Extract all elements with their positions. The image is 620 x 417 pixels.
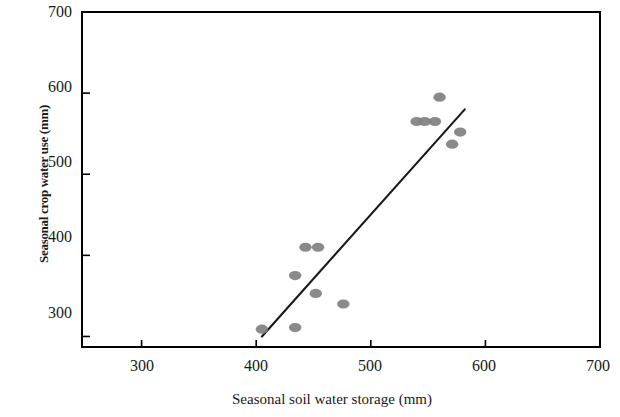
data-point-5 xyxy=(310,289,322,298)
data-point-2 xyxy=(289,271,301,280)
plot-area xyxy=(0,0,620,417)
data-point-4 xyxy=(312,243,324,252)
trendline-segment xyxy=(262,109,465,336)
regression-line xyxy=(262,109,465,336)
data-point-1 xyxy=(289,323,301,332)
data-point-10 xyxy=(433,93,445,102)
scatter-chart-figure: Seasonal crop water use (mm) 700 600 500… xyxy=(0,0,620,417)
plot-frame xyxy=(82,12,600,347)
y-axis-ticks xyxy=(82,93,90,336)
data-point-6 xyxy=(337,299,349,308)
data-point-9 xyxy=(429,117,441,126)
data-point-3 xyxy=(299,243,311,252)
x-axis-ticks xyxy=(142,340,486,347)
data-point-11 xyxy=(446,140,458,149)
data-points xyxy=(256,93,467,334)
data-point-12 xyxy=(454,127,466,136)
data-point-0 xyxy=(256,325,268,334)
